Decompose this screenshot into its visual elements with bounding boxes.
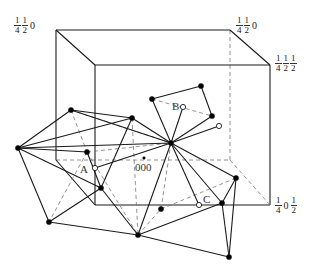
open-atom-icon-Bo <box>180 104 185 109</box>
bond-BM-CR <box>138 203 222 235</box>
bond-L1-H <box>71 110 171 143</box>
fraction: 12 <box>22 16 29 35</box>
atom-dot-icon-L1 <box>68 107 73 112</box>
atom-dot-icon-H <box>168 140 173 145</box>
atom-dot-icon-CR <box>219 200 224 205</box>
point-label-C: C <box>203 193 210 205</box>
bond-CR-BR <box>222 203 229 257</box>
denominator: 2 <box>290 64 297 73</box>
bond-H-RT <box>171 143 236 178</box>
atom-dot-icon-M <box>98 185 103 190</box>
atom-dot-icon-BL <box>46 219 51 224</box>
bond-BM-BR <box>138 235 229 257</box>
atom-dot-icon-Bt <box>198 83 203 88</box>
atom-dot-icon-BR <box>226 254 231 259</box>
fraction: 12 <box>291 196 298 215</box>
bond-FL-Ad <box>18 148 87 152</box>
coord-label-front-bottom-right: 14012 <box>275 196 298 215</box>
denominator: 4 <box>275 206 282 215</box>
coord-label-back-top-left: 14120 <box>14 16 35 35</box>
bond-L1-L2 <box>71 110 132 118</box>
hidden-bond-L2-BM <box>132 118 138 235</box>
fraction: 12 <box>283 54 290 73</box>
box-depth-edge-tl <box>56 30 95 65</box>
open-atom-icon-Co <box>196 202 201 207</box>
atom-dot-icon-L2 <box>129 115 134 120</box>
bond-BL-M <box>49 188 101 222</box>
bond-Bt-Br <box>201 86 212 116</box>
origin-dot-icon <box>143 157 146 160</box>
hidden-bond-P-H <box>161 143 171 209</box>
coord-value: 0 <box>284 201 289 211</box>
atom-dot-icon-BM <box>135 232 140 237</box>
bond-FL-BL <box>18 148 49 222</box>
denominator: 2 <box>291 206 298 215</box>
bond-Ao-H <box>95 143 171 168</box>
coord-label-back-top-right: 14120 <box>236 16 257 35</box>
crystal-structure-diagram: 141201412014121214012ABC000 <box>0 0 314 269</box>
denominator: 4 <box>236 26 243 35</box>
bond-H-Bo <box>171 107 183 143</box>
open-atom-icon-Ao <box>92 165 97 170</box>
fraction: 12 <box>244 16 251 35</box>
denominator: 4 <box>14 26 21 35</box>
atom-dot-icon-Bl <box>149 96 154 101</box>
bond-M-BM <box>101 188 138 235</box>
bond-Bl-Bt <box>152 86 201 99</box>
denominator: 2 <box>244 26 251 35</box>
atom-dot-icon-FL <box>15 145 20 150</box>
denominator: 2 <box>22 26 29 35</box>
polyhedra-figure <box>0 0 314 269</box>
atom-dot-icon-Br <box>209 113 214 118</box>
coord-label-front-top-right: 141212 <box>275 54 298 73</box>
box-depth-edge-tr <box>230 30 270 65</box>
bond-H-Br <box>171 116 212 143</box>
bond-BL-BM <box>49 222 138 235</box>
bond-BM-H <box>138 143 171 235</box>
bond-FL-L1 <box>18 110 71 148</box>
coord-value: 0 <box>30 21 35 31</box>
fraction: 14 <box>275 54 282 73</box>
point-label-A: A <box>80 163 88 175</box>
point-label-origin: 000 <box>135 161 152 173</box>
point-label-B: B <box>172 100 179 112</box>
open-atom-icon-Ro <box>216 123 221 128</box>
fraction: 14 <box>275 196 282 215</box>
bond-H-Co <box>171 143 199 205</box>
bond-H-Ro <box>171 126 219 143</box>
bond-RT-BR <box>229 178 236 257</box>
atom-dot-icon-RT <box>233 175 238 180</box>
atom-dot-icon-Ad <box>84 149 89 154</box>
atom-dot-icon-P <box>158 206 163 211</box>
fraction: 12 <box>290 54 297 73</box>
bond-FL-L2 <box>18 118 132 148</box>
fraction: 14 <box>14 16 21 35</box>
coord-value: 0 <box>252 21 257 31</box>
fraction: 14 <box>236 16 243 35</box>
denominator: 2 <box>283 64 290 73</box>
denominator: 4 <box>275 64 282 73</box>
